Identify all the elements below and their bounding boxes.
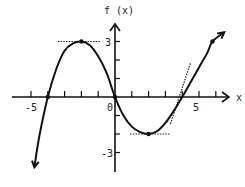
marked-point — [79, 39, 83, 43]
function-graph: -505 3-3 f (x) x — [0, 0, 245, 187]
x-axis-label: x — [236, 92, 242, 103]
tangent-line — [170, 63, 190, 124]
marked-point — [113, 95, 117, 99]
marked-point — [210, 39, 214, 43]
y-tick-label: 3 — [105, 37, 111, 48]
function-curve — [34, 32, 224, 167]
y-axis-label: f (x) — [104, 5, 134, 16]
tangent-lines — [58, 42, 191, 135]
marked-points — [46, 39, 215, 136]
marked-point — [46, 95, 50, 99]
x-tick-label: -5 — [25, 102, 37, 113]
x-axis-ticks — [31, 91, 216, 97]
x-tick-label: 0 — [107, 102, 113, 113]
x-axis — [12, 92, 229, 102]
marked-point — [146, 132, 150, 136]
y-tick-label: -3 — [101, 148, 113, 159]
x-tick-label: 5 — [193, 102, 199, 113]
